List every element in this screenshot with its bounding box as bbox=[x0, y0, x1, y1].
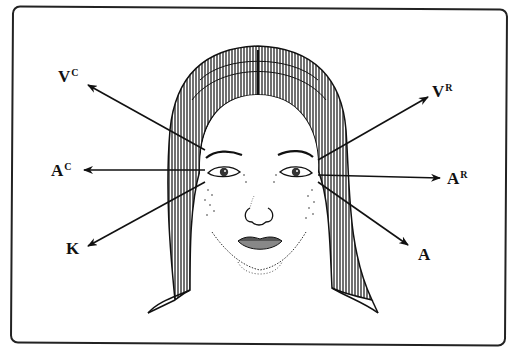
label-visual-constructed: VC bbox=[58, 68, 79, 85]
face-illustration bbox=[0, 0, 516, 355]
label-auditory-constructed: AC bbox=[51, 162, 72, 179]
label-kinesthetic: K bbox=[66, 240, 80, 257]
label-auditory-remembered: AR bbox=[447, 170, 468, 187]
label-auditory-internal: A bbox=[418, 246, 431, 263]
face bbox=[200, 95, 318, 274]
label-visual-remembered: VR bbox=[432, 83, 453, 100]
